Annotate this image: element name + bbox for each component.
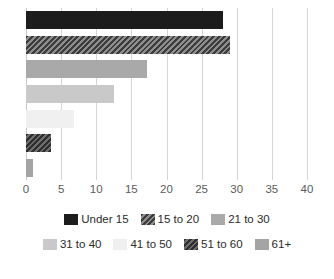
bar-group: [26, 8, 307, 180]
legend-row: Under 1515 to 2021 to 30: [0, 207, 334, 232]
legend-swatch-icon: [113, 239, 127, 250]
legend-swatch-icon: [141, 214, 155, 225]
bar-slot: [26, 159, 307, 177]
legend-label: 21 to 30: [228, 213, 270, 226]
legend-item-21-to-30[interactable]: 21 to 30: [211, 213, 270, 226]
legend-label: 61+: [272, 238, 292, 251]
chart-legend: Under 1515 to 2021 to 3031 to 4041 to 50…: [0, 207, 334, 257]
bar-21-to-30[interactable]: [26, 60, 147, 78]
bar-41-to-50[interactable]: [26, 110, 74, 128]
bar-slot: [26, 134, 307, 152]
legend-item-41-to-50[interactable]: 41 to 50: [113, 238, 172, 251]
x-axis: 0510152025303540: [26, 182, 307, 200]
plot-area: [26, 8, 307, 180]
bar-chart: 0510152025303540 Under 1515 to 2021 to 3…: [0, 0, 334, 279]
legend-swatch-icon: [255, 239, 269, 250]
bar-under-15[interactable]: [26, 11, 223, 29]
legend-swatch-icon: [211, 214, 225, 225]
legend-label: 41 to 50: [130, 238, 172, 251]
legend-item-under-15[interactable]: Under 15: [64, 213, 128, 226]
legend-item-61[interactable]: 61+: [255, 238, 292, 251]
legend-item-15-to-20[interactable]: 15 to 20: [141, 213, 200, 226]
bar-slot: [26, 11, 307, 29]
legend-swatch-icon: [43, 239, 57, 250]
gridline-40: [307, 8, 308, 180]
bar-15-to-20[interactable]: [26, 36, 230, 54]
legend-item-51-to-60[interactable]: 51 to 60: [184, 238, 243, 251]
legend-label: Under 15: [81, 213, 128, 226]
bar-slot: [26, 36, 307, 54]
bar-31-to-40[interactable]: [26, 85, 114, 103]
bar-slot: [26, 60, 307, 78]
legend-item-31-to-40[interactable]: 31 to 40: [43, 238, 102, 251]
x-tick-label: 40: [301, 182, 314, 196]
bar-51-to-60[interactable]: [26, 134, 51, 152]
x-tick-label: 30: [230, 182, 243, 196]
legend-swatch-icon: [184, 239, 198, 250]
x-tick-label: 25: [195, 182, 208, 196]
bar-slot: [26, 85, 307, 103]
x-tick-label: 10: [90, 182, 103, 196]
x-tick-label: 20: [160, 182, 173, 196]
x-tick-label: 0: [23, 182, 29, 196]
x-tick-label: 35: [265, 182, 278, 196]
bar-slot: [26, 110, 307, 128]
x-tick-label: 5: [58, 182, 64, 196]
legend-label: 31 to 40: [60, 238, 102, 251]
legend-swatch-icon: [64, 214, 78, 225]
legend-row: 31 to 4041 to 5051 to 6061+: [0, 232, 334, 257]
bar-61[interactable]: [26, 159, 33, 177]
x-tick-label: 15: [125, 182, 138, 196]
legend-label: 15 to 20: [158, 213, 200, 226]
legend-label: 51 to 60: [201, 238, 243, 251]
